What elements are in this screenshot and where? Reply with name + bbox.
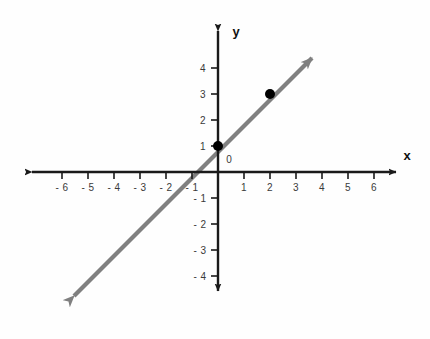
point-2-3 [265, 89, 275, 99]
x-tick-label-3: 3 [293, 182, 299, 193]
x-tick-label-2: 2 [267, 182, 273, 193]
y-tick-label-1: 1 [200, 141, 206, 152]
y-tick-label-neg4: - 4 [193, 271, 206, 282]
x-axis [32, 172, 396, 179]
plotted-points [213, 89, 275, 151]
line-y-equals-x-plus-1 [74, 58, 312, 296]
coordinate-plane-svg [0, 0, 430, 339]
origin-label: 0 [226, 154, 232, 165]
x-tick-label-neg5: - 5 [81, 182, 94, 193]
x-tick-label-neg1: - 1 [185, 182, 198, 193]
x-tick-label-neg3: - 3 [133, 182, 146, 193]
x-tick-label-1: 1 [241, 182, 247, 193]
graph-canvas: - 6 - 5 - 4 - 3 - 2 - 1 1 2 3 4 5 6 4 3 … [0, 0, 430, 339]
graphed-line [74, 58, 312, 296]
x-tick-label-neg6: - 6 [55, 182, 68, 193]
y-tick-label-3: 3 [200, 89, 206, 100]
x-tick-label-neg4: - 4 [107, 182, 120, 193]
y-axis [211, 31, 218, 291]
y-tick-label-neg2: - 2 [193, 219, 206, 230]
x-axis-label: x [403, 148, 410, 163]
x-tick-label-4: 4 [319, 182, 325, 193]
y-axis-label: y [232, 24, 239, 39]
y-tick-label-neg1: - 1 [193, 193, 206, 204]
point-0-1 [213, 141, 223, 151]
y-tick-label-4: 4 [200, 63, 206, 74]
y-tick-label-neg3: - 3 [193, 245, 206, 256]
x-tick-label-5: 5 [345, 182, 351, 193]
x-tick-label-neg2: - 2 [159, 182, 172, 193]
x-tick-label-6: 6 [371, 182, 377, 193]
y-tick-label-2: 2 [200, 115, 206, 126]
